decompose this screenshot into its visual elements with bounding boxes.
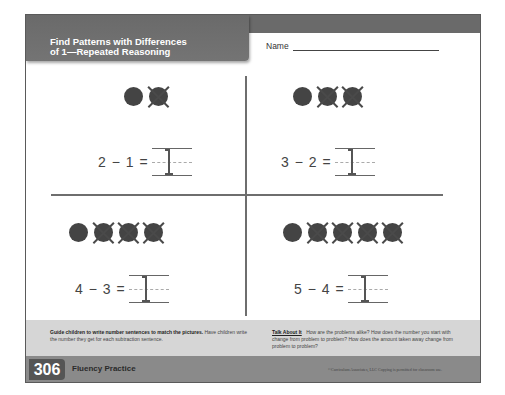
problem-3: 4 − 3 = — [26, 205, 226, 315]
talk-about-it: Talk About It How are the problems alike… — [272, 329, 462, 350]
equation: 4 − 3 = — [75, 275, 169, 303]
answer-box[interactable] — [152, 148, 192, 176]
section-label: Fluency Practice — [72, 364, 136, 373]
copyright-text: ©Curriculum Associates, LLC Copying is p… — [328, 367, 442, 372]
dot-row — [124, 87, 168, 106]
equation-text: 3 − 2 = — [281, 154, 332, 170]
text-cursor-icon — [168, 149, 170, 175]
equation-text: 4 − 3 = — [75, 281, 126, 297]
teacher-guide-band: Guide children to write number sentences… — [26, 320, 480, 356]
answer-box[interactable] — [129, 275, 169, 303]
crossed-dot-icon — [119, 223, 138, 242]
page-title: Find Patterns with Differences of 1—Repe… — [50, 37, 250, 57]
crossed-dot-icon — [333, 223, 352, 242]
dot-row — [283, 223, 402, 242]
guide-instructions: Guide children to write number sentences… — [50, 329, 250, 343]
name-line[interactable] — [293, 41, 439, 51]
page-number: 306 — [29, 359, 65, 380]
crossed-dot-icon — [149, 87, 168, 106]
crossed-dot-icon — [308, 223, 327, 242]
text-cursor-icon — [364, 276, 366, 302]
equation: 5 − 4 = — [294, 275, 388, 303]
crossed-dot-icon — [94, 223, 113, 242]
answer-box[interactable] — [335, 148, 375, 176]
text-cursor-icon — [145, 276, 147, 302]
crossed-dot-icon — [358, 223, 377, 242]
problem-4: 5 − 4 = — [248, 205, 448, 315]
vertical-divider — [245, 76, 247, 316]
equation-text: 5 − 4 = — [294, 281, 345, 297]
crossed-dot-icon — [318, 87, 337, 106]
name-field[interactable]: Name — [266, 41, 439, 51]
dot-icon — [293, 87, 312, 106]
dot-icon — [283, 223, 302, 242]
text-cursor-icon — [351, 149, 353, 175]
crossed-dot-icon — [383, 223, 402, 242]
equation: 3 − 2 = — [281, 148, 375, 176]
crossed-dot-icon — [144, 223, 163, 242]
worksheet-page: Find Patterns with Differences of 1—Repe… — [25, 14, 481, 383]
dot-row — [69, 223, 163, 242]
footer-band: 306 Fluency Practice ©Curriculum Associa… — [26, 356, 480, 383]
title-tab: Find Patterns with Differences of 1—Repe… — [26, 15, 249, 61]
dot-icon — [124, 87, 143, 106]
answer-box[interactable] — [348, 275, 388, 303]
equation-text: 2 − 1 = — [98, 154, 149, 170]
problem-2: 3 − 2 = — [248, 75, 448, 185]
crossed-dot-icon — [343, 87, 362, 106]
dot-row — [293, 87, 362, 106]
talk-about-it-label: Talk About It — [272, 329, 302, 335]
title-line-2: of 1—Repeated Reasoning — [50, 47, 250, 57]
problem-1: 2 − 1 = — [26, 75, 226, 185]
horizontal-divider — [51, 194, 443, 196]
name-label: Name — [266, 41, 289, 51]
guide-instruction-bold: Guide children to write number sentences… — [50, 329, 203, 335]
dot-icon — [69, 223, 88, 242]
equation: 2 − 1 = — [98, 148, 192, 176]
